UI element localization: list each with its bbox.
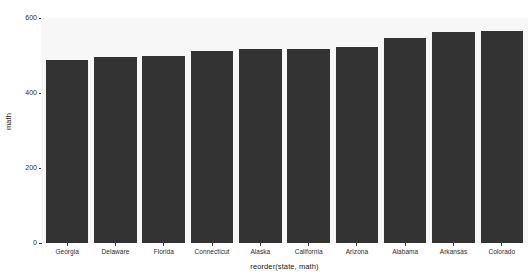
bar <box>142 56 185 243</box>
bar-slot <box>478 18 526 243</box>
x-tick-mark <box>501 243 502 246</box>
x-tick-label: Colorado <box>488 248 515 255</box>
x-tick-slot: Alaska <box>236 243 284 263</box>
y-axis-ticks: 600 400 200 0 <box>0 0 42 275</box>
x-axis-title-label: reorder(state, math) <box>250 262 318 271</box>
bar <box>94 57 137 243</box>
bar-slot <box>429 18 477 243</box>
bar-slot <box>284 18 332 243</box>
y-tick-label-200: 200 <box>25 163 37 173</box>
x-tick-mark <box>260 243 261 246</box>
bar-slot <box>333 18 381 243</box>
bar <box>481 31 524 243</box>
x-tick-mark <box>163 243 164 246</box>
x-axis-title: reorder(state, math) <box>41 262 528 271</box>
y-tick-label-400: 400 <box>25 88 37 98</box>
x-axis-ticks: GeorgiaDelawareFloridaConnecticutAlaskaC… <box>41 243 528 263</box>
bar <box>287 49 330 243</box>
x-tick-mark <box>115 243 116 246</box>
x-tick-mark <box>308 243 309 246</box>
x-tick-slot: Georgia <box>43 243 91 263</box>
x-tick-slot: Alabama <box>381 243 429 263</box>
x-tick-label: Alaska <box>250 248 270 255</box>
x-tick-slot: Colorado <box>478 243 526 263</box>
x-tick-slot: Florida <box>140 243 188 263</box>
x-tick-label: Delaware <box>102 248 130 255</box>
y-tick-label-0: 0 <box>33 238 37 248</box>
y-tick-600: 600 <box>25 13 42 23</box>
bar-slot <box>43 18 91 243</box>
x-tick-slot: California <box>284 243 332 263</box>
x-tick-label: Florida <box>154 248 174 255</box>
bar <box>191 51 234 243</box>
x-tick-label: California <box>295 248 323 255</box>
x-tick-slot: Arizona <box>333 243 381 263</box>
x-tick-label: Arkansas <box>440 248 468 255</box>
x-tick-slot: Delaware <box>91 243 139 263</box>
x-tick-label: Georgia <box>55 248 78 255</box>
x-tick-mark <box>356 243 357 246</box>
bar <box>239 49 282 243</box>
bar-slot <box>188 18 236 243</box>
y-tick-400: 400 <box>25 88 42 98</box>
bar <box>46 60 89 243</box>
x-tick-label: Alabama <box>392 248 418 255</box>
x-tick-label: Arizona <box>346 248 368 255</box>
bar-chart: math 600 400 200 0 GeorgiaDelawareFlorid… <box>0 0 530 275</box>
bar-slot <box>236 18 284 243</box>
plot-panel <box>41 18 528 243</box>
bar <box>432 32 475 243</box>
y-tick-200: 200 <box>25 163 42 173</box>
x-tick-slot: Connecticut <box>188 243 236 263</box>
bar-slot <box>140 18 188 243</box>
x-tick-slot: Arkansas <box>429 243 477 263</box>
bars-layer <box>41 18 528 243</box>
x-tick-mark <box>67 243 68 246</box>
x-tick-label: Connecticut <box>195 248 230 255</box>
bar <box>384 38 427 243</box>
x-tick-mark <box>405 243 406 246</box>
x-tick-mark <box>212 243 213 246</box>
bar-slot <box>381 18 429 243</box>
x-tick-mark <box>453 243 454 246</box>
y-tick-label-600: 600 <box>25 13 37 23</box>
bar <box>336 47 379 243</box>
bar-slot <box>91 18 139 243</box>
